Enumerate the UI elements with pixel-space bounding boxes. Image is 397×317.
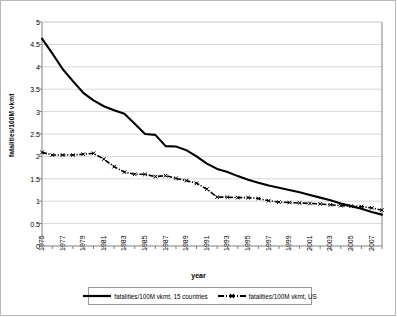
x-axis-title: year xyxy=(0,272,397,279)
series-marker-1 xyxy=(164,174,168,178)
legend-label-15-countries: fatalities/100M vkmt, 15 countries xyxy=(114,293,207,300)
x-tickmarks-group xyxy=(39,22,382,249)
series-marker-1 xyxy=(154,175,158,179)
series-group xyxy=(40,39,384,215)
legend-swatch-dashdot-icon xyxy=(218,292,246,300)
legend-swatch-solid-icon xyxy=(83,292,111,300)
legend-label-us: fatalities/100M vkmt, US xyxy=(249,293,317,300)
series-marker-1 xyxy=(308,202,312,206)
legend-item-15-countries: fatalities/100M vkmt, 15 countries xyxy=(83,292,207,300)
series-line-0 xyxy=(42,39,382,215)
chart-container: fatalities/100M vkmt 54.543.532.521.510.… xyxy=(0,0,397,317)
series-marker-1 xyxy=(102,157,106,161)
chart-legend: fatalities/100M vkmt, 15 countries fatal… xyxy=(88,287,312,305)
plot-area xyxy=(0,0,397,317)
legend-item-us: fatalities/100M vkmt, US xyxy=(218,292,317,300)
